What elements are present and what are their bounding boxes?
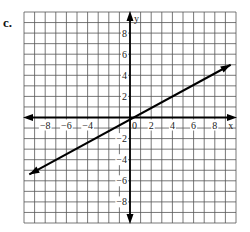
y-tick-label: −4 [116,154,127,165]
x-tick-label: 2 [149,120,154,131]
x-tick-label: −6 [61,120,72,131]
y-axis-label: y [134,13,139,24]
x-axis-left-arrow-icon [23,114,33,121]
y-tick-label: 6 [122,49,127,60]
y-axis-up-arrow-icon [127,11,134,21]
y-tick-label: 4 [122,70,127,81]
y-tick-label: 2 [122,91,127,102]
origin-label: 0 [132,120,137,131]
x-tick-label: 4 [170,120,175,131]
x-tick-label: 8 [212,120,217,131]
x-tick-label: 6 [191,120,196,131]
x-axis-label: x [228,120,233,131]
x-tick-label: −4 [82,120,93,131]
y-tick-label: −2 [116,133,127,144]
x-tick-label: −8 [40,120,51,131]
y-tick-label: −8 [116,196,127,207]
y-tick-label: 8 [122,28,127,39]
y-axis-down-arrow-icon [127,214,134,224]
y-tick-label: −6 [116,175,127,186]
coordinate-grid-chart: −8−6−424688642−2−4−6−80xy [0,0,250,232]
